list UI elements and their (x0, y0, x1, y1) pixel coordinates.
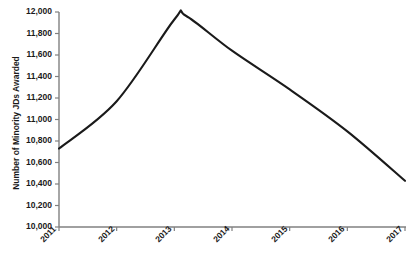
data-series-line (59, 10, 405, 180)
y-tick-label: 10,400 (6, 178, 52, 188)
y-tick-label: 12,000 (6, 6, 52, 16)
axes-group (59, 12, 406, 227)
y-tick-label: 11,600 (6, 49, 52, 59)
line-chart: Number of Minority JDs Awarded 10,00010,… (0, 0, 414, 268)
y-tick-label: 11,000 (6, 114, 52, 124)
y-tick-label: 11,400 (6, 71, 52, 81)
y-tick-label: 10,600 (6, 157, 52, 167)
y-tick-label: 11,800 (6, 28, 52, 38)
plot-area (0, 0, 414, 268)
y-tick-label: 10,800 (6, 135, 52, 145)
y-tick-label: 10,200 (6, 200, 52, 210)
y-tick-label: 11,200 (6, 92, 52, 102)
